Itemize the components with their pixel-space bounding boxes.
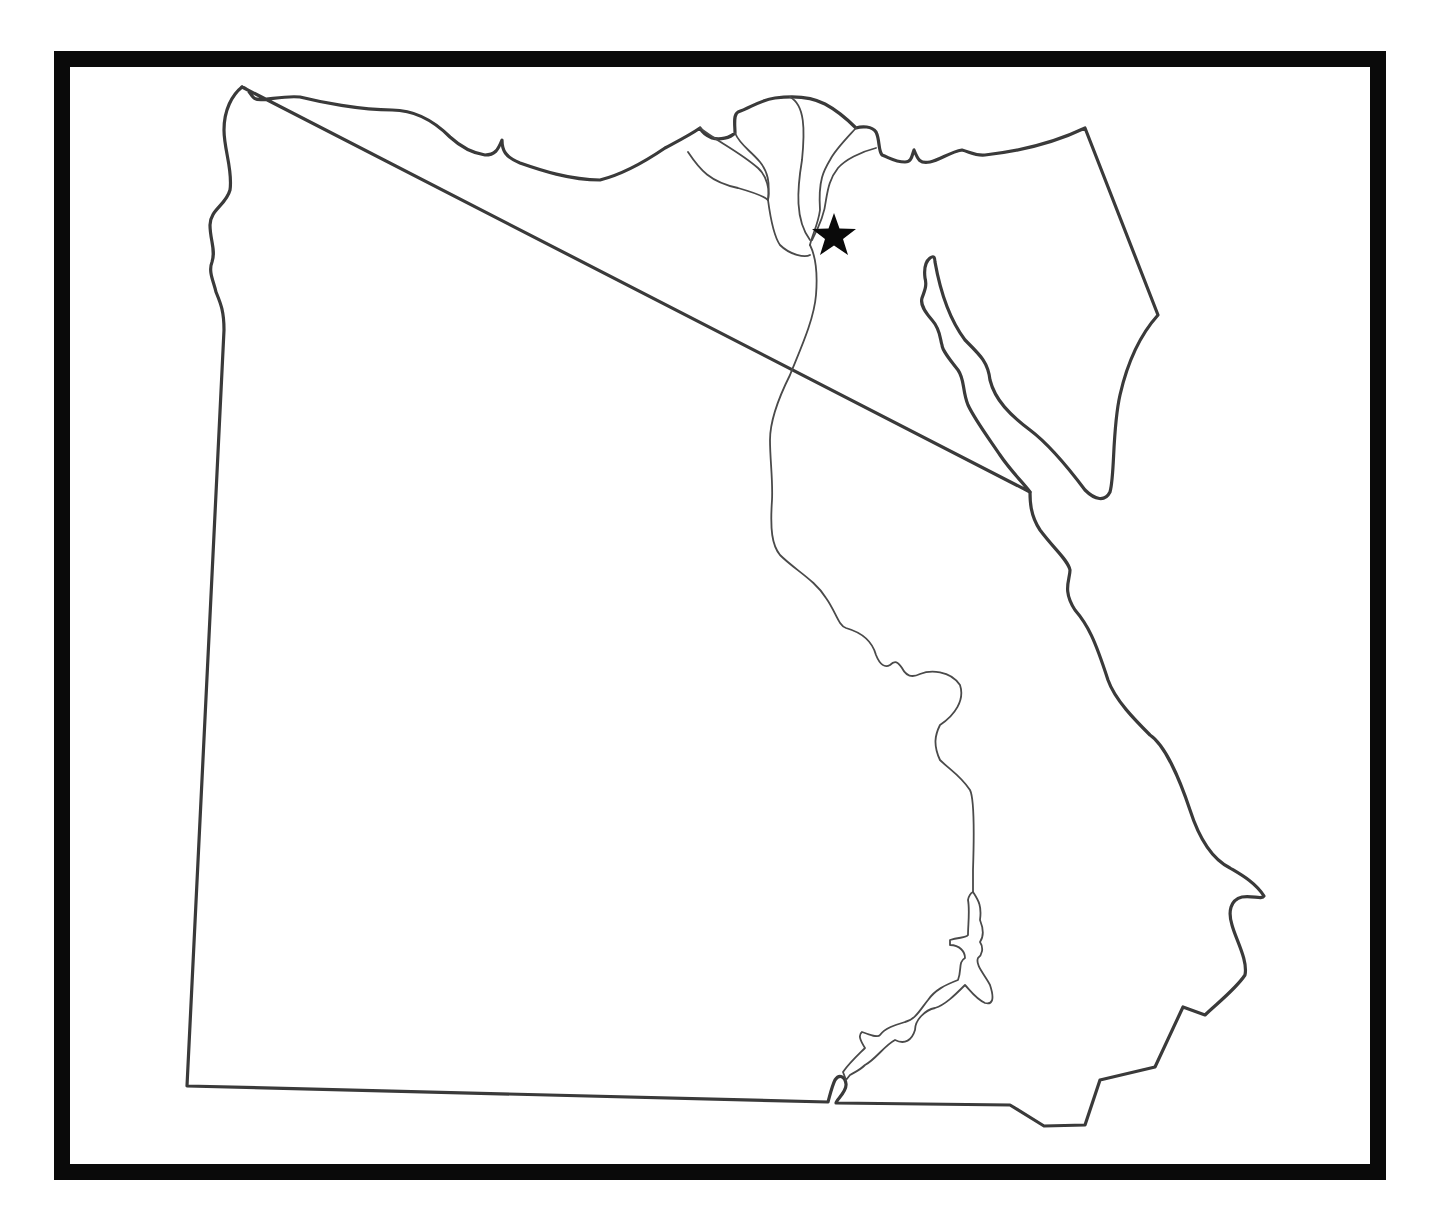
nile-river xyxy=(770,245,974,892)
lake-nasser xyxy=(843,892,992,1080)
egypt-outline-map xyxy=(0,0,1436,1223)
nile-delta-east-branch-2 xyxy=(812,148,876,240)
nile-delta-west-branch xyxy=(688,152,768,200)
country-border xyxy=(187,87,1264,1126)
sinai-border xyxy=(242,87,1158,499)
nile-delta-central-branch xyxy=(790,97,810,240)
